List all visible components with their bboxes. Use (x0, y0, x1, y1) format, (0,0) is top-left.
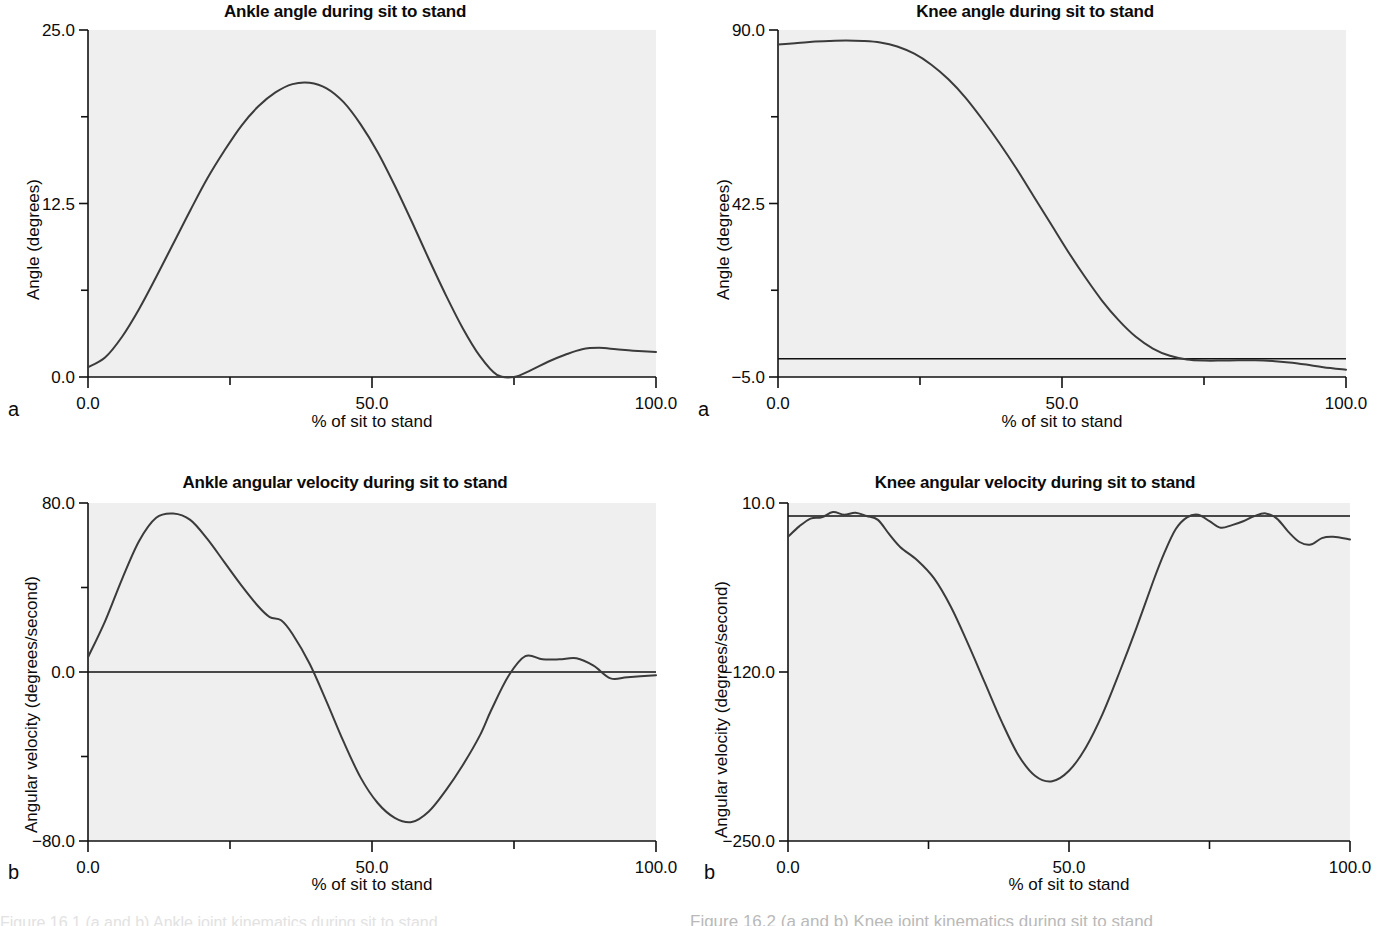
x-tick-label: 100.0 (1325, 394, 1368, 413)
y-tick-label: 12.5 (42, 195, 75, 214)
y-tick-label: 25.0 (42, 21, 75, 40)
panel-letter: a (698, 398, 709, 421)
plot-background (788, 503, 1350, 841)
knee-velocity-plot: −250.0−120.010.00.050.0100.0 (690, 463, 1380, 926)
panel-knee-angle: Knee angle during sit to stand −5.042.59… (690, 0, 1380, 463)
y-tick-label: 90.0 (732, 21, 765, 40)
y-axis-label: Angular velocity (degrees/second) (22, 576, 42, 833)
figure-caption-partial: Figure 16.2 (a and b) Knee joint kinemat… (690, 912, 1380, 926)
figure-caption-partial-left: Figure 16.1 (a and b) Ankle joint kinema… (0, 914, 690, 926)
x-tick-label: 100.0 (635, 394, 678, 413)
y-axis-label: Angle (degrees) (714, 179, 734, 300)
figure-grid: Ankle angle during sit to stand 0.012.52… (0, 0, 1380, 926)
x-tick-label: 50.0 (355, 394, 388, 413)
plot-background (88, 30, 656, 377)
panel-ankle-angle: Ankle angle during sit to stand 0.012.52… (0, 0, 690, 463)
knee-angle-plot: −5.042.590.00.050.0100.0 (690, 0, 1380, 463)
x-tick-label: 0.0 (766, 394, 790, 413)
y-tick-label: −80.0 (32, 832, 75, 851)
x-tick-label: 0.0 (76, 394, 100, 413)
x-axis-label: % of sit to stand (88, 875, 656, 895)
x-tick-label: 50.0 (1045, 394, 1078, 413)
y-tick-label: 80.0 (42, 494, 75, 513)
y-tick-label: 0.0 (51, 368, 75, 387)
panel-letter: b (704, 861, 715, 884)
ankle-angle-plot: 0.012.525.00.050.0100.0 (0, 0, 690, 463)
plot-background (778, 30, 1346, 377)
y-axis-label: Angular velocity (degrees/second) (712, 581, 732, 838)
x-axis-label: % of sit to stand (778, 412, 1346, 432)
panel-knee-velocity: Knee angular velocity during sit to stan… (690, 463, 1380, 926)
y-tick-label: 10.0 (742, 494, 775, 513)
y-tick-label: 42.5 (732, 195, 765, 214)
y-tick-label: 0.0 (51, 663, 75, 682)
panel-letter: b (8, 861, 19, 884)
x-axis-label: % of sit to stand (88, 412, 656, 432)
ankle-velocity-plot: −80.00.080.00.050.0100.0 (0, 463, 690, 926)
y-tick-label: −5.0 (731, 368, 765, 387)
panel-ankle-velocity: Ankle angular velocity during sit to sta… (0, 463, 690, 926)
panel-letter: a (8, 398, 19, 421)
y-axis-label: Angle (degrees) (24, 179, 44, 300)
x-axis-label: % of sit to stand (788, 875, 1350, 895)
